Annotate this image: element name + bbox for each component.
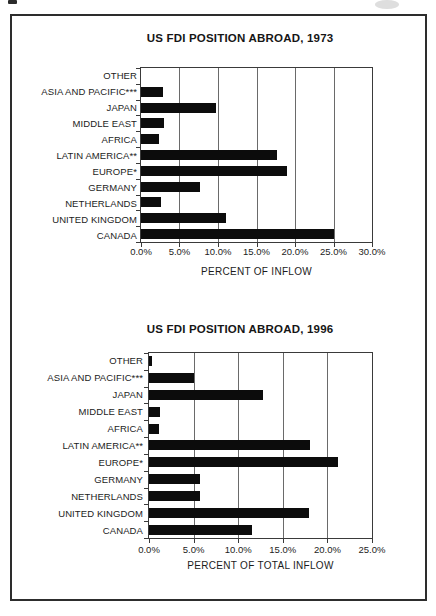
x-tick-mark bbox=[372, 539, 373, 543]
bar bbox=[149, 424, 159, 434]
x-tick-mark bbox=[238, 539, 239, 543]
category-label: UNITED KINGDOM bbox=[10, 211, 137, 227]
category-label: ASIA AND PACIFIC*** bbox=[10, 83, 137, 99]
y-tick-mark bbox=[136, 179, 140, 180]
bar bbox=[141, 197, 161, 207]
y-tick-mark bbox=[136, 68, 140, 69]
category-label: JAPAN bbox=[10, 386, 143, 403]
bar bbox=[149, 440, 310, 450]
y-tick-mark bbox=[144, 403, 148, 404]
category-label: JAPAN bbox=[10, 99, 137, 115]
bar bbox=[149, 491, 200, 501]
category-label: OTHER bbox=[10, 352, 143, 369]
x-tick-mark bbox=[194, 539, 195, 543]
scanned-page: US FDI POSITION ABROAD, 1973 OTHERASIA A… bbox=[0, 0, 436, 616]
x-tick-label: 30.0% bbox=[359, 246, 386, 257]
chart-title: US FDI POSITION ABROAD, 1973 bbox=[44, 32, 436, 44]
x-tick-label: 5.0% bbox=[183, 544, 205, 555]
bar bbox=[141, 118, 164, 128]
y-tick-mark bbox=[136, 131, 140, 132]
y-tick-mark bbox=[144, 437, 148, 438]
y-tick-mark bbox=[136, 195, 140, 196]
y-tick-mark bbox=[136, 84, 140, 85]
category-axis-labels: OTHERASIA AND PACIFIC***JAPANMIDDLE EAST… bbox=[10, 67, 137, 243]
x-tick-label: 20.0% bbox=[314, 544, 341, 555]
bar bbox=[149, 457, 338, 467]
x-axis-title: PERCENT OF TOTAL INFLOW bbox=[148, 560, 373, 571]
bar-row bbox=[149, 454, 372, 471]
category-label: CANADA bbox=[10, 227, 137, 243]
bar bbox=[141, 213, 226, 223]
bar bbox=[141, 150, 277, 160]
y-tick-mark bbox=[136, 163, 140, 164]
x-tick-label: 15.0% bbox=[243, 246, 270, 257]
category-label: NETHERLANDS bbox=[10, 195, 137, 211]
x-tick-label: 10.0% bbox=[205, 246, 232, 257]
bar-row bbox=[149, 437, 372, 454]
category-label: MIDDLE EAST bbox=[10, 115, 137, 131]
x-axis-tick-labels: 0.0%5.0%10.0%15.0%20.0%25.0% bbox=[149, 544, 372, 556]
y-tick-mark bbox=[136, 100, 140, 101]
bar-row bbox=[149, 353, 372, 370]
bar bbox=[149, 356, 152, 366]
x-tick-label: 25.0% bbox=[320, 246, 347, 257]
x-axis-tick-labels: 0.0%5.0%10.0%15.0%20.0%25.0%30.0% bbox=[141, 246, 372, 258]
category-label: LATIN AMERICA** bbox=[10, 147, 137, 163]
y-tick-mark bbox=[144, 488, 148, 489]
y-tick-mark bbox=[144, 454, 148, 455]
category-label: AFRICA bbox=[10, 131, 137, 147]
bar bbox=[141, 87, 163, 97]
scan-artifact bbox=[8, 0, 17, 4]
y-tick-mark bbox=[144, 504, 148, 505]
y-tick-mark bbox=[144, 538, 148, 539]
y-tick-mark bbox=[136, 242, 140, 243]
category-label: NETHERLANDS bbox=[10, 488, 143, 505]
category-label: CANADA bbox=[10, 522, 143, 539]
bar bbox=[149, 407, 160, 417]
plot-area bbox=[140, 67, 373, 243]
category-label: AFRICA bbox=[10, 420, 143, 437]
bar bbox=[141, 103, 216, 113]
chart-title: US FDI POSITION ABROAD, 1996 bbox=[44, 323, 436, 335]
x-tick-mark bbox=[149, 539, 150, 543]
bar bbox=[141, 229, 334, 239]
category-label: ASIA AND PACIFIC*** bbox=[10, 369, 143, 386]
y-tick-mark bbox=[144, 387, 148, 388]
bar-row bbox=[149, 471, 372, 488]
gridline bbox=[327, 353, 328, 538]
y-tick-mark bbox=[136, 210, 140, 211]
x-tick-label: 5.0% bbox=[169, 246, 191, 257]
x-tick-label: 10.0% bbox=[225, 544, 252, 555]
category-label: UNITED KINGDOM bbox=[10, 505, 143, 522]
y-tick-mark bbox=[144, 370, 148, 371]
x-tick-mark bbox=[283, 539, 284, 543]
bar bbox=[149, 474, 200, 484]
scan-artifact bbox=[375, 0, 399, 9]
bar-row bbox=[149, 403, 372, 420]
y-tick-mark bbox=[144, 471, 148, 472]
bar bbox=[149, 508, 309, 518]
category-label: OTHER bbox=[10, 67, 137, 83]
bar bbox=[149, 390, 263, 400]
category-axis-labels: OTHERASIA AND PACIFIC***JAPANMIDDLE EAST… bbox=[10, 352, 143, 539]
y-tick-mark bbox=[144, 521, 148, 522]
y-tick-mark bbox=[136, 115, 140, 116]
y-tick-mark bbox=[144, 420, 148, 421]
category-label: MIDDLE EAST bbox=[10, 403, 143, 420]
category-label: EUROPE* bbox=[10, 163, 137, 179]
x-tick-mark bbox=[327, 539, 328, 543]
bar-row bbox=[149, 504, 372, 521]
bar bbox=[149, 525, 252, 535]
y-tick-mark bbox=[136, 147, 140, 148]
category-label: EUROPE* bbox=[10, 454, 143, 471]
y-tick-mark bbox=[136, 226, 140, 227]
y-tick-mark bbox=[144, 353, 148, 354]
gridline bbox=[295, 68, 296, 242]
x-tick-label: 0.0% bbox=[138, 544, 160, 555]
x-axis-title: PERCENT OF INFLOW bbox=[140, 266, 373, 277]
bar-row bbox=[149, 488, 372, 505]
x-tick-label: 0.0% bbox=[130, 246, 152, 257]
bar-row bbox=[149, 521, 372, 538]
x-tick-label: 20.0% bbox=[282, 246, 309, 257]
bar-row bbox=[149, 387, 372, 404]
